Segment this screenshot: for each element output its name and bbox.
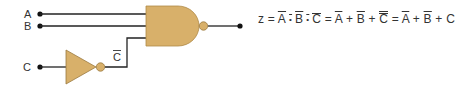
eq-term-nand: A•B•C [278,12,321,26]
nand-bubble-icon [199,22,207,30]
boolean-equation: z = A•B•C = A + B + C = A + B + C [258,12,455,26]
term1-c-bar: C [312,12,321,26]
eq-lhs: z [258,12,264,26]
c-bar-label: C [113,51,121,63]
not-bubble-icon [96,63,104,71]
nand-gate [146,6,199,46]
term3-b-bar: B [424,12,432,26]
term1-dot1: • [289,15,292,24]
not-gate [66,50,96,84]
term2-c-double-bar: C [379,12,388,26]
input-label-a: A [24,8,32,20]
term2-a-bar: A [335,12,343,26]
term3-c: C [446,12,455,26]
term1-c: C [312,12,321,26]
eq-sign-3: = [392,12,399,26]
term3-a-bar: A [402,12,410,26]
term2-plus1: + [346,12,353,26]
wire-c-bar [105,38,147,67]
term1-a: A [278,12,286,26]
term3-plus1: + [413,12,420,26]
term2-b-bar: B [357,12,365,26]
eq-sign-1: = [268,12,275,26]
input-label-c: C [23,61,31,73]
term2-c: C [379,12,388,26]
term2-plus2: + [368,12,375,26]
eq-sign-2: = [325,12,332,26]
terminal-output [237,23,242,28]
term1-dot2: • [306,15,309,24]
input-label-b: B [24,20,31,32]
term3-plus2: + [435,12,442,26]
term1-b: B [295,12,303,26]
